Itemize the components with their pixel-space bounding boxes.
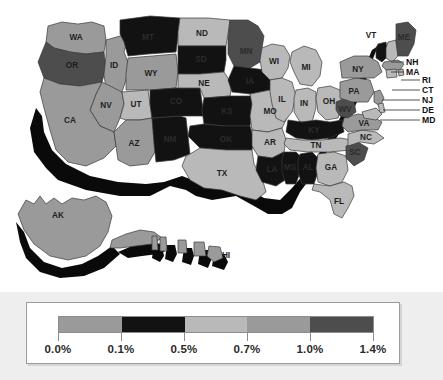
- state-CT[interactable]: [386, 69, 397, 78]
- state-HI-island-3[interactable]: [178, 240, 187, 253]
- state-label-WV: WV: [338, 105, 352, 114]
- legend-tick-4: [310, 333, 311, 341]
- legend-tick-0: [58, 333, 59, 341]
- legend-swatch-bin-1[interactable]: [122, 317, 185, 332]
- legend-swatch-bin-4[interactable]: [310, 317, 373, 332]
- state-label-OK: OK: [220, 135, 232, 144]
- state-label-RI: RI: [422, 75, 431, 85]
- legend-label-2: 0.5%: [170, 343, 197, 355]
- map-canvas: WA OR ID MT WY NV UT CA AZ NM CO ND SD N…: [0, 0, 443, 292]
- state-MN[interactable]: [228, 20, 264, 68]
- state-label-TN: TN: [311, 141, 322, 150]
- state-label-OR: OR: [66, 61, 78, 70]
- state-label-IL: IL: [278, 95, 285, 104]
- state-label-KS: KS: [221, 107, 233, 116]
- legend-swatch-bin-0[interactable]: [59, 317, 122, 332]
- state-label-ME: ME: [398, 33, 411, 42]
- state-label-IA: IA: [246, 77, 254, 86]
- state-HI-island-4[interactable]: [194, 242, 206, 256]
- legend-label-3: 0.7%: [233, 343, 260, 355]
- state-label-NY: NY: [352, 65, 364, 74]
- legend-label-0: 0.0%: [44, 343, 71, 355]
- state-label-WI: WI: [269, 57, 279, 66]
- state-label-MD: MD: [422, 115, 435, 125]
- state-HI-island-2[interactable]: [160, 237, 167, 251]
- state-label-LA: LA: [267, 165, 278, 174]
- state-label-WA: WA: [69, 33, 82, 42]
- legend-tick-1: [121, 333, 122, 341]
- state-label-AK: AK: [52, 211, 64, 220]
- legend-panel: 0.0% 0.1% 0.5% 0.7% 1.0% 1.4%: [26, 302, 400, 364]
- state-label-AL: AL: [303, 163, 314, 172]
- legend-color-bar[interactable]: [58, 316, 374, 333]
- state-label-VT: VT: [366, 31, 376, 40]
- legend-label-5: 1.4%: [359, 343, 386, 355]
- state-label-ND: ND: [196, 29, 208, 38]
- state-label-MT: MT: [142, 33, 154, 42]
- state-label-MS: MS: [284, 163, 297, 172]
- state-label-VA: VA: [359, 119, 370, 128]
- state-label-PA: PA: [349, 87, 360, 96]
- state-RI[interactable]: [398, 69, 404, 76]
- state-label-NJ: NJ: [422, 95, 433, 105]
- state-label-CA: CA: [64, 116, 76, 125]
- state-label-MO: MO: [263, 107, 277, 116]
- state-label-WY: WY: [144, 69, 158, 78]
- state-label-AZ: AZ: [129, 139, 140, 148]
- state-label-SC: SC: [349, 148, 360, 157]
- state-label-GA: GA: [325, 163, 337, 172]
- us-map-svg[interactable]: WA OR ID MT WY NV UT CA AZ NM CO ND SD N…: [0, 0, 443, 292]
- legend-tick-3: [247, 333, 248, 341]
- legend-tick-labels: 0.0% 0.1% 0.5% 0.7% 1.0% 1.4%: [58, 343, 374, 359]
- legend-tick-5: [373, 333, 374, 341]
- state-label-NH: NH: [406, 57, 418, 67]
- state-label-NE: NE: [198, 79, 210, 88]
- state-label-CO: CO: [170, 97, 183, 106]
- state-label-MN: MN: [240, 47, 253, 56]
- state-label-UT: UT: [131, 100, 142, 109]
- state-HI-island-1[interactable]: [152, 236, 158, 250]
- legend-swatch-bin-2[interactable]: [185, 317, 248, 332]
- legend-swatch-bin-3[interactable]: [247, 317, 310, 332]
- state-label-MI: MI: [301, 63, 310, 72]
- state-label-AR: AR: [264, 138, 276, 147]
- state-MA[interactable]: [382, 60, 404, 70]
- state-label-NM: NM: [164, 135, 177, 144]
- state-label-SD: SD: [195, 55, 206, 64]
- us-choropleth-figure: WA OR ID MT WY NV UT CA AZ NM CO ND SD N…: [0, 0, 443, 380]
- state-label-NC: NC: [360, 133, 372, 142]
- state-label-TX: TX: [217, 169, 228, 178]
- legend-tick-marks: [58, 333, 374, 341]
- state-label-FL: FL: [334, 197, 344, 206]
- state-label-ID: ID: [110, 61, 118, 70]
- state-label-NV: NV: [100, 101, 112, 110]
- state-label-DE: DE: [422, 105, 434, 115]
- state-label-KY: KY: [308, 126, 320, 135]
- state-polygons[interactable]: [18, 16, 416, 262]
- state-label-OH: OH: [323, 97, 335, 106]
- state-label-HI: HI: [222, 251, 230, 260]
- state-label-IN: IN: [300, 99, 308, 108]
- state-label-MA: MA: [406, 67, 419, 77]
- legend-label-4: 1.0%: [296, 343, 323, 355]
- legend-tick-2: [184, 333, 185, 341]
- state-label-CT: CT: [422, 85, 434, 95]
- legend-label-1: 0.1%: [107, 343, 134, 355]
